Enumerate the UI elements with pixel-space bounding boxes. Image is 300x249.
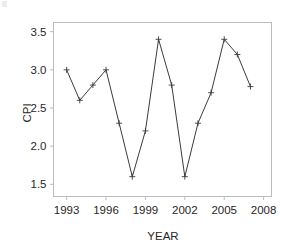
data-point-marker [129, 174, 135, 180]
x-tick-label: 2008 [251, 204, 277, 216]
data-point-marker [208, 90, 214, 96]
x-tick-label: 1993 [54, 204, 80, 216]
y-tick-label: 2.0 [31, 140, 47, 152]
x-tick-label: 2005 [211, 204, 237, 216]
data-point-marker [64, 67, 70, 73]
x-axis-tick-marks [67, 197, 264, 201]
y-axis-title: CPI [21, 103, 33, 122]
x-tick-label: 1999 [133, 204, 159, 216]
data-point-markers [64, 36, 254, 179]
data-point-marker [182, 174, 188, 180]
data-point-marker [247, 84, 253, 90]
corner-artifact [2, 1, 7, 7]
line-chart: 1.52.02.53.03.5 199319961999200220052008… [0, 0, 300, 249]
chart-figure: 1.52.02.53.03.5 199319961999200220052008… [0, 0, 300, 249]
data-point-marker [156, 36, 162, 42]
y-tick-label: 3.0 [31, 64, 47, 76]
data-series-line [67, 39, 251, 176]
y-tick-label: 1.5 [31, 178, 47, 190]
data-point-marker [195, 120, 201, 126]
data-point-marker [142, 128, 148, 134]
y-axis-tick-marks [50, 32, 54, 185]
data-point-marker [169, 82, 175, 88]
x-tick-label: 2002 [172, 204, 198, 216]
plot-frame [54, 23, 272, 197]
x-tick-label: 1996 [93, 204, 119, 216]
y-tick-label: 3.5 [31, 26, 47, 38]
x-axis-tick-labels: 199319961999200220052008 [54, 204, 277, 216]
x-axis-title: YEAR [147, 230, 178, 242]
data-point-marker [116, 120, 122, 126]
